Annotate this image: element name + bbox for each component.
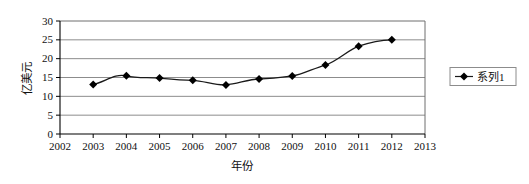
x-tick-label-2006: 2006 bbox=[182, 140, 205, 152]
x-tick-label-2002: 2002 bbox=[49, 140, 71, 152]
x-axis-title: 年份 bbox=[231, 159, 254, 172]
x-tick-label-2004: 2004 bbox=[115, 140, 138, 152]
y-tick-label-10: 10 bbox=[42, 90, 54, 102]
x-tick-label-2012: 2012 bbox=[381, 140, 403, 152]
x-tick-label-2008: 2008 bbox=[248, 140, 271, 152]
chart-legend[interactable]: 系列1 bbox=[450, 68, 516, 86]
x-tick-label-2010: 2010 bbox=[314, 140, 337, 152]
x-tick-label-2007: 2007 bbox=[215, 140, 238, 152]
chart-canvas: 0 5 10 15 20 25 30 2002 2003 2 bbox=[0, 0, 529, 184]
x-axis-tick-labels: 2002 2003 2004 2005 2006 2007 2008 2009 … bbox=[49, 140, 437, 152]
y-axis-title: 亿美元 bbox=[20, 61, 33, 95]
y-axis-tick-labels: 0 5 10 15 20 25 30 bbox=[42, 15, 54, 140]
line-chart: 0 5 10 15 20 25 30 2002 2003 2 bbox=[0, 0, 529, 184]
y-tick-label-0: 0 bbox=[48, 128, 54, 140]
x-axis-ticks bbox=[60, 134, 425, 138]
x-tick-label-2011: 2011 bbox=[348, 140, 370, 152]
y-tick-label-25: 25 bbox=[42, 33, 54, 45]
legend-entry-label-0: 系列1 bbox=[477, 70, 505, 83]
y-tick-label-5: 5 bbox=[48, 109, 54, 121]
y-tick-label-15: 15 bbox=[42, 71, 54, 83]
x-tick-label-2005: 2005 bbox=[149, 140, 172, 152]
y-tick-label-30: 30 bbox=[42, 15, 54, 27]
y-axis-ticks bbox=[56, 21, 60, 134]
x-tick-label-2003: 2003 bbox=[82, 140, 105, 152]
x-tick-label-2009: 2009 bbox=[281, 140, 304, 152]
y-tick-label-20: 20 bbox=[42, 52, 54, 64]
x-tick-label-2013: 2013 bbox=[414, 140, 437, 152]
